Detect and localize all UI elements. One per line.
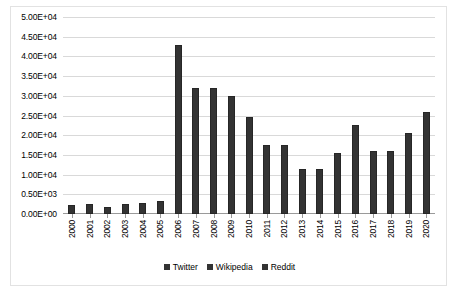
bar[interactable] bbox=[104, 207, 111, 214]
bar-slot bbox=[98, 17, 116, 214]
x-axis-tick-mark bbox=[125, 214, 126, 218]
bar[interactable] bbox=[334, 153, 341, 214]
x-axis-tick-mark bbox=[214, 214, 215, 218]
x-axis-tick-label: 2020 bbox=[421, 220, 431, 238]
bar[interactable] bbox=[281, 145, 288, 214]
chart-legend: TwitterWikipediaReddit bbox=[11, 262, 448, 272]
x-axis-tick: 2001 bbox=[81, 214, 99, 260]
bar-slot bbox=[400, 17, 418, 214]
y-axis-tick-label: 3.00E+04 bbox=[21, 91, 57, 101]
x-axis-tick-label: 2008 bbox=[209, 220, 219, 238]
bar[interactable] bbox=[86, 204, 93, 214]
x-axis-tick: 2010 bbox=[240, 214, 258, 260]
y-axis-tick-label: 2.50E+04 bbox=[21, 111, 57, 121]
bar[interactable] bbox=[263, 145, 270, 214]
bar[interactable] bbox=[299, 169, 306, 214]
x-axis-tick: 2012 bbox=[276, 214, 294, 260]
bar-slot bbox=[116, 17, 134, 214]
x-axis-tick-mark bbox=[267, 214, 268, 218]
x-axis-tick: 2004 bbox=[134, 214, 152, 260]
x-axis-tick-label: 2012 bbox=[279, 220, 289, 238]
bar-slot bbox=[276, 17, 294, 214]
x-axis-tick-label: 2002 bbox=[102, 220, 112, 238]
x-axis-tick-mark bbox=[160, 214, 161, 218]
x-axis-tick: 2008 bbox=[205, 214, 223, 260]
bar-slot bbox=[63, 17, 81, 214]
y-axis-tick-label: 3.50E+04 bbox=[21, 71, 57, 81]
x-axis-tick-mark bbox=[196, 214, 197, 218]
x-axis-tick-label: 2005 bbox=[155, 220, 165, 238]
x-axis-tick-label: 2011 bbox=[262, 220, 272, 237]
bar-slot bbox=[187, 17, 205, 214]
x-axis-tick-mark bbox=[391, 214, 392, 218]
bar-series-group bbox=[63, 17, 435, 214]
bar[interactable] bbox=[352, 125, 359, 214]
plot-area bbox=[63, 17, 435, 214]
x-axis: 2000200120022003200420052006200720082009… bbox=[63, 214, 435, 260]
bar-slot bbox=[152, 17, 170, 214]
x-axis-tick-mark bbox=[249, 214, 250, 218]
bar[interactable] bbox=[68, 205, 75, 214]
bar-slot bbox=[311, 17, 329, 214]
bar-slot bbox=[364, 17, 382, 214]
y-axis-tick-label: 0.00E+00 bbox=[21, 209, 57, 219]
x-axis-tick-label: 2018 bbox=[386, 220, 396, 238]
x-axis-tick-mark bbox=[338, 214, 339, 218]
x-axis-tick-mark bbox=[178, 214, 179, 218]
bar[interactable] bbox=[423, 112, 430, 214]
legend-label: Twitter bbox=[173, 262, 198, 272]
legend-label: Reddit bbox=[271, 262, 296, 272]
bar-slot bbox=[240, 17, 258, 214]
x-axis-tick-label: 2017 bbox=[368, 220, 378, 238]
x-axis-tick-label: 2001 bbox=[85, 220, 95, 238]
x-axis-tick: 2002 bbox=[98, 214, 116, 260]
bar-slot bbox=[205, 17, 223, 214]
y-axis-tick-label: 4.50E+04 bbox=[21, 32, 57, 42]
x-axis-tick: 2003 bbox=[116, 214, 134, 260]
bar-slot bbox=[417, 17, 435, 214]
legend-item[interactable]: Reddit bbox=[262, 262, 296, 272]
x-axis-tick-mark bbox=[320, 214, 321, 218]
bar-slot bbox=[169, 17, 187, 214]
bar[interactable] bbox=[210, 88, 217, 214]
bar[interactable] bbox=[192, 88, 199, 214]
bar[interactable] bbox=[316, 169, 323, 214]
x-axis-tick: 2006 bbox=[169, 214, 187, 260]
bar[interactable] bbox=[139, 203, 146, 214]
x-axis-tick-mark bbox=[107, 214, 108, 218]
x-axis-tick-label: 2000 bbox=[67, 220, 77, 238]
x-axis-tick-label: 2007 bbox=[191, 220, 201, 238]
x-axis-tick-mark bbox=[143, 214, 144, 218]
bar[interactable] bbox=[157, 201, 164, 214]
x-axis-tick: 2014 bbox=[311, 214, 329, 260]
x-axis-tick-mark bbox=[231, 214, 232, 218]
bar[interactable] bbox=[175, 45, 182, 214]
x-axis-tick-mark bbox=[302, 214, 303, 218]
x-axis-tick-label: 2019 bbox=[404, 220, 414, 238]
x-axis-tick-label: 2015 bbox=[333, 220, 343, 238]
legend-item[interactable]: Wikipedia bbox=[207, 262, 253, 272]
bar-slot bbox=[81, 17, 99, 214]
x-axis-tick-mark bbox=[373, 214, 374, 218]
bar[interactable] bbox=[387, 151, 394, 214]
bar[interactable] bbox=[246, 117, 253, 214]
bar[interactable] bbox=[228, 96, 235, 214]
chart-container: 5.00E+044.50E+044.00E+043.50E+043.00E+04… bbox=[10, 6, 447, 286]
x-axis-tick-label: 2004 bbox=[138, 220, 148, 238]
y-axis-tick-label: 1.50E+04 bbox=[21, 150, 57, 160]
x-axis-tick: 2000 bbox=[63, 214, 81, 260]
x-axis-tick-label: 2013 bbox=[297, 220, 307, 238]
bar[interactable] bbox=[122, 204, 129, 214]
bar-slot bbox=[329, 17, 347, 214]
legend-item[interactable]: Twitter bbox=[164, 262, 198, 272]
y-axis: 5.00E+044.50E+044.00E+043.50E+043.00E+04… bbox=[11, 17, 61, 214]
x-axis-tick: 2013 bbox=[293, 214, 311, 260]
bar[interactable] bbox=[370, 151, 377, 214]
x-axis-tick: 2015 bbox=[329, 214, 347, 260]
x-axis-tick: 2009 bbox=[222, 214, 240, 260]
y-axis-tick-label: 2.00E+04 bbox=[21, 130, 57, 140]
x-axis-tick-label: 2009 bbox=[226, 220, 236, 238]
bar[interactable] bbox=[405, 133, 412, 214]
y-axis-tick-label: 0.50E+03 bbox=[21, 189, 57, 199]
x-axis-tick-label: 2006 bbox=[173, 220, 183, 238]
